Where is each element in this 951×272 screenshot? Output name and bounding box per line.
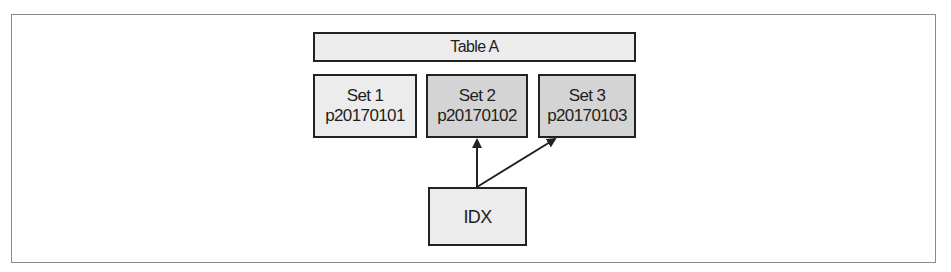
arrows-layer xyxy=(0,0,951,272)
arrow-idx-to-set-3 xyxy=(477,139,555,187)
